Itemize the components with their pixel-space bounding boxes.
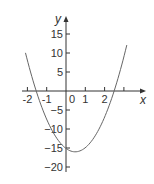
x-tick-label: 0 (69, 93, 75, 105)
y-axis-label: y (54, 12, 62, 26)
y-tick-label: 15 (51, 28, 63, 40)
y-tick-label: −15 (44, 142, 63, 154)
x-tick-label: 1 (82, 93, 88, 105)
y-tick-label: 10 (51, 47, 63, 59)
y-tick-label: 5 (57, 66, 63, 78)
x-tick-label: 2 (102, 93, 108, 105)
y-tick-label: −5 (50, 104, 63, 116)
y-axis-arrow-icon (64, 16, 69, 22)
parabola-curve (25, 45, 126, 152)
parabola-chart: -2-1012−20−15−10−551015 x y (0, 0, 154, 184)
y-tick-label: −20 (44, 161, 63, 173)
x-axis-label: x (139, 93, 147, 107)
x-tick-label: -2 (23, 93, 33, 105)
